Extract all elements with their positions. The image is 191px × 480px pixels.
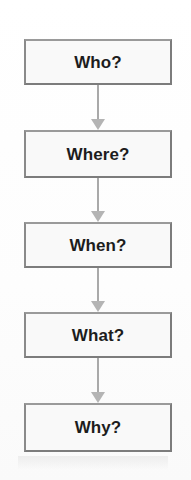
flow-arrow-where-to-when [91,178,105,222]
flow-node-why[interactable]: Why? [24,403,172,452]
arrow-stem [97,268,99,301]
flow-node-label: Who? [74,54,122,71]
flow-node-label: What? [72,327,124,344]
flow-node-label: When? [69,237,126,254]
arrow-head-icon [91,392,105,403]
flow-node-where[interactable]: Where? [24,130,172,178]
flow-node-label: Where? [67,146,130,163]
arrow-head-icon [91,211,105,222]
flow-node-when[interactable]: When? [24,222,172,268]
arrow-stem [97,178,99,211]
arrow-stem [97,358,99,392]
arrow-stem [97,85,99,119]
flow-arrow-who-to-where [91,85,105,130]
flow-node-what[interactable]: What? [24,312,172,358]
scan-artifact [18,456,168,470]
flowchart-diagram: Who? Where? When? What? Why? [0,0,191,480]
flow-arrow-when-to-what [91,268,105,312]
arrow-head-icon [91,119,105,130]
flow-arrow-what-to-why [91,358,105,403]
arrow-head-icon [91,301,105,312]
flow-node-who[interactable]: Who? [24,39,172,85]
flow-node-label: Why? [75,419,122,436]
